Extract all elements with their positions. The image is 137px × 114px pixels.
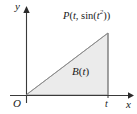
point-label-P: P(t, sin(t2)) — [63, 9, 110, 21]
origin-label: O — [13, 98, 21, 109]
math-figure: y x O t B(t) P(t, sin(t2)) — [0, 0, 137, 114]
point-label-close-paren: ) — [107, 10, 111, 21]
region-label-B: B(t) — [72, 66, 89, 77]
y-axis-arrowhead — [23, 6, 29, 13]
region-label-close-paren: ) — [85, 65, 89, 77]
region-label-name: B — [72, 65, 79, 77]
y-axis-label: y — [15, 1, 20, 12]
x-tick-label-t: t — [105, 99, 108, 109]
point-label-function: sin — [81, 10, 93, 21]
x-axis-label: x — [126, 99, 131, 110]
